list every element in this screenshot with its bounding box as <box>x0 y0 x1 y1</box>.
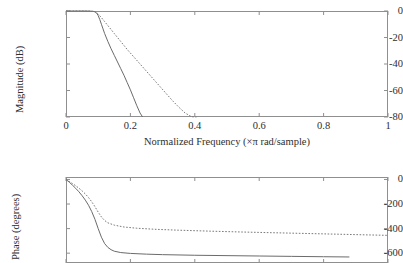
y-tick-label: -40 <box>341 59 403 69</box>
x-tick-label: 0.8 <box>317 120 330 131</box>
y-tick-label: -80 <box>341 112 403 122</box>
y-tick-label: -200 <box>341 199 403 209</box>
y-tick-label: -600 <box>341 248 403 258</box>
phase-curves <box>66 179 388 257</box>
figure-root: 0-20-40-60-80 00.20.40.60.81 Magnitude (… <box>0 0 403 263</box>
x-tick-label: 0.6 <box>253 120 266 131</box>
x-tick-label: 0.2 <box>124 120 137 131</box>
filter-a-magnitude <box>66 11 143 117</box>
phase-axis-label: Phase (degrees) <box>10 194 21 260</box>
magnitude-axis-label: Magnitude (dB) <box>14 46 25 113</box>
phase-tick-marks <box>66 177 388 263</box>
x-tick-label: 0 <box>63 120 68 131</box>
frequency-axis-label: Normalized Frequency (×π rad/sample) <box>66 136 388 147</box>
phase-subplot: 0-200-400-600 Phase (degrees) <box>0 155 403 263</box>
x-tick-label: 0.4 <box>188 120 201 131</box>
y-tick-label: -60 <box>341 86 403 96</box>
magnitude-subplot: 0-20-40-60-80 00.20.40.60.81 Magnitude (… <box>0 0 403 136</box>
y-tick-label: 0 <box>341 174 403 184</box>
filter-b-phase <box>66 179 388 235</box>
y-tick-label: -400 <box>341 224 403 234</box>
filter-a-phase <box>66 179 349 257</box>
filter-b-magnitude <box>66 11 196 117</box>
x-tick-label: 1 <box>385 120 390 131</box>
y-tick-label: -20 <box>341 33 403 43</box>
magnitude-curves <box>66 11 196 117</box>
y-tick-label: 0 <box>341 6 403 16</box>
magnitude-tick-marks <box>66 11 388 117</box>
